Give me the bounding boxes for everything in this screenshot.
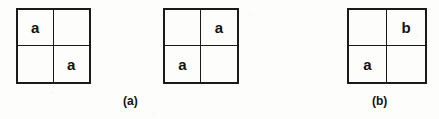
grid-3-cell-top-right-label: b	[401, 20, 410, 35]
grid-2-cell-top-left	[165, 10, 201, 46]
grid-2-cell-bottom-left: a	[165, 46, 201, 82]
grid-2-cell-bottom-left-label: a	[178, 57, 186, 72]
grid-1-cell-top-right	[54, 10, 90, 46]
grid-3-cell-top-left	[349, 10, 387, 46]
grid-1-cell-top-left-label: a	[31, 20, 39, 35]
grid-2-cell-top-right: a	[201, 10, 237, 46]
grid-3-cell-top-right: b	[387, 10, 425, 46]
grid-2-cell-top-right-label: a	[215, 20, 223, 35]
grid-3-cell-bottom-left: a	[349, 46, 387, 82]
grid-1-cell-bottom-right-label: a	[67, 57, 75, 72]
grid-3-cell-bottom-right	[387, 46, 425, 82]
grid-1-cell-bottom-left	[18, 46, 54, 82]
figure-root: a a a a b a	[0, 0, 439, 119]
grid-1-cell-bottom-right: a	[54, 46, 90, 82]
grid-3-cell-bottom-left-label: a	[363, 57, 371, 72]
grid-1-cell-top-left: a	[18, 10, 54, 46]
grid-1: a a	[16, 8, 91, 84]
grid-3: b a	[347, 8, 427, 84]
grid-2-cell-bottom-right	[201, 46, 237, 82]
caption-a: (a)	[123, 95, 138, 107]
grid-2: a a	[163, 8, 239, 84]
caption-b: (b)	[372, 95, 387, 107]
